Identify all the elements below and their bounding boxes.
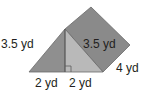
label-left-slant: 3.5 yd [1,37,34,51]
label-right-slant: 3.5 yd [83,37,116,51]
label-base-right: 2 yd [69,76,92,90]
prism-triangle-left-half [29,29,65,72]
triangular-prism-diagram: 3.5 yd 3.5 yd 4 yd 2 yd 2 yd [0,0,149,97]
label-depth: 4 yd [116,61,139,75]
label-base-left: 2 yd [35,76,58,90]
